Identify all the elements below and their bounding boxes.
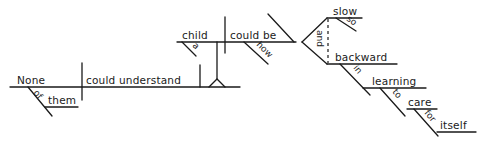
word-to: to bbox=[390, 87, 404, 101]
word-and: and bbox=[315, 30, 325, 47]
word-care: care bbox=[408, 96, 432, 108]
word-learning: learning bbox=[372, 75, 416, 87]
word-them: them bbox=[48, 94, 76, 106]
word-none: None bbox=[17, 74, 45, 86]
word-itself: itself bbox=[440, 119, 467, 131]
word-could-understand: could understand bbox=[86, 74, 181, 86]
word-backward: backward bbox=[335, 51, 387, 63]
sentence-diagram: None could understand of them child coul… bbox=[0, 0, 484, 149]
word-in: in bbox=[351, 63, 364, 76]
word-of: of bbox=[31, 88, 45, 102]
word-child: child bbox=[182, 29, 208, 41]
word-could-be: could be bbox=[230, 29, 277, 41]
pedestal-base bbox=[209, 79, 225, 87]
